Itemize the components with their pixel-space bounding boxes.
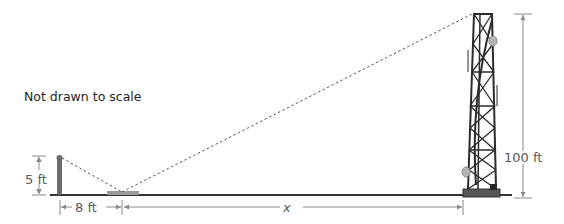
diagram-svg	[0, 0, 564, 224]
sightline-person-to-mirror	[62, 158, 122, 192]
not-to-scale-note: Not drawn to scale	[24, 91, 141, 104]
diagram-canvas: Not drawn to scale 5 ft 8 ft x 100 ft	[0, 0, 564, 224]
mirror-to-tower-label: x	[283, 201, 291, 214]
tower-height-label: 100 ft	[503, 151, 543, 164]
dish-lower-icon	[462, 167, 470, 177]
person-height-label: 5 ft	[25, 173, 47, 186]
dimension-x	[124, 200, 463, 215]
dimension-100ft	[514, 14, 532, 198]
person-icon	[57, 155, 63, 195]
dish-upper-icon	[489, 36, 497, 46]
person-to-mirror-label: 8 ft	[75, 201, 97, 214]
sightline-mirror-to-tower	[122, 13, 474, 192]
